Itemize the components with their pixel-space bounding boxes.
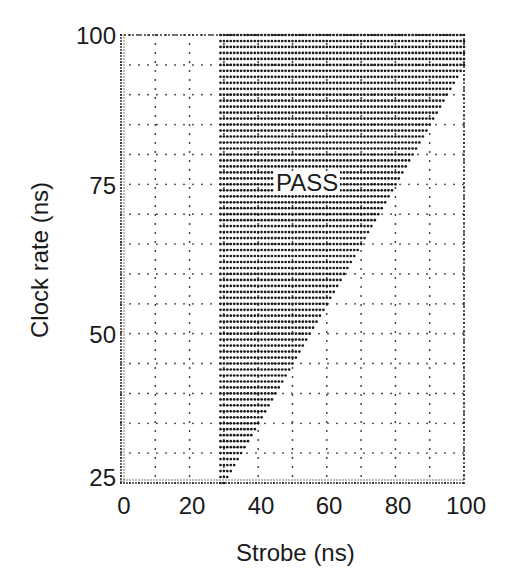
y-tick-75: 75 — [56, 174, 116, 198]
pass-region-label: PASS — [274, 171, 340, 195]
y-tick-25: 25 — [56, 466, 116, 490]
x-tick-100: 100 — [426, 494, 506, 518]
pass-region-dots — [219, 34, 465, 485]
x-axis-title: Strobe (ns) — [236, 541, 355, 565]
x-tick-20: 20 — [152, 494, 232, 518]
x-tick-60: 60 — [289, 494, 369, 518]
y-tick-100: 100 — [56, 24, 116, 48]
y-axis-title: Clock rate (ns) — [28, 170, 52, 350]
y-tick-50: 50 — [56, 323, 116, 347]
